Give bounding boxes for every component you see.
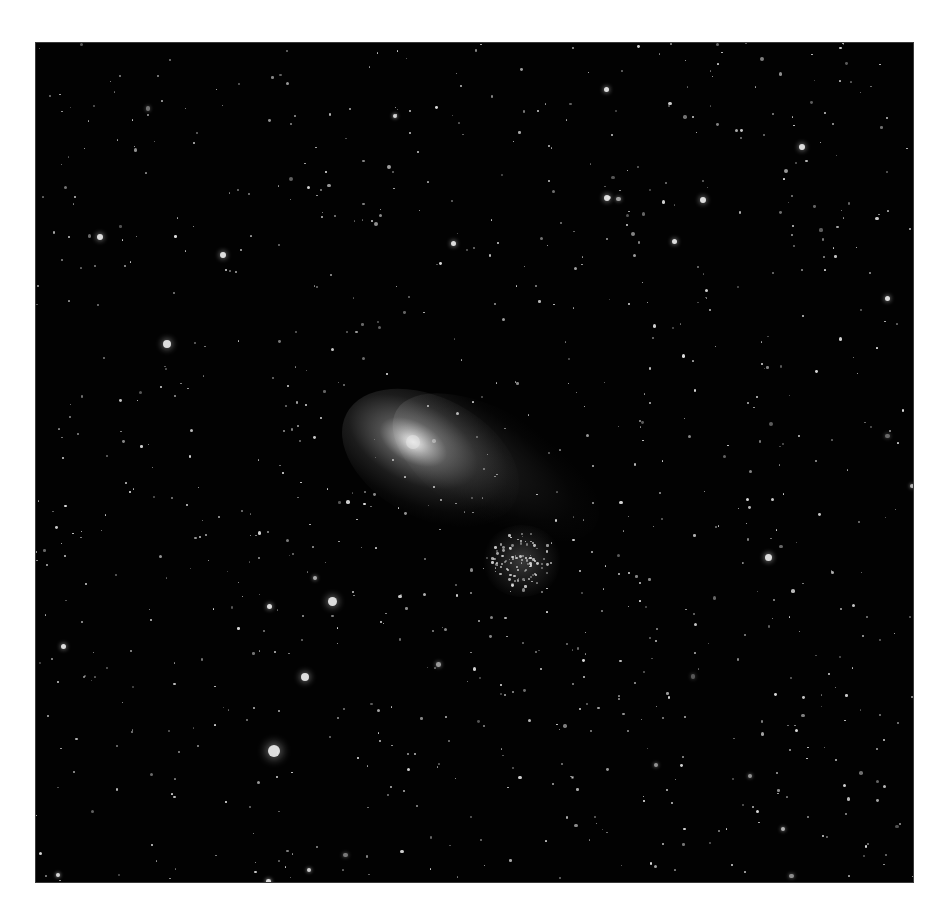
star [685,609,686,610]
star [65,600,67,602]
star [760,57,764,61]
star [791,195,793,197]
star [886,117,888,119]
star [470,652,471,653]
star [80,267,82,269]
star [346,331,348,333]
cluster-star [520,542,522,544]
star [572,539,574,541]
star [831,571,834,574]
star [718,525,720,527]
star [342,869,344,871]
star [850,81,852,83]
star [597,707,599,709]
star [791,589,795,593]
star [438,763,440,765]
star [315,147,317,149]
star [619,501,622,504]
star [397,109,399,111]
star [57,787,58,788]
star [811,54,813,56]
star [650,862,652,864]
star [618,573,620,575]
star [641,421,644,424]
star [848,202,851,205]
star [805,160,807,162]
star [400,850,403,853]
star [285,405,287,407]
star [483,725,485,727]
star [735,129,738,132]
star [39,48,40,49]
star [876,748,878,750]
star [662,460,663,461]
star [229,270,231,272]
star [238,582,239,583]
star [647,302,649,304]
star [395,107,397,109]
cluster-star [529,562,531,564]
star [649,637,651,639]
star [134,146,136,148]
star [403,790,405,792]
star [639,600,641,602]
star [132,686,134,688]
star [42,196,44,198]
star [427,667,428,668]
star [64,555,66,557]
star [579,570,581,572]
star [704,491,706,493]
star [432,439,435,442]
star [185,108,187,110]
star [291,428,293,430]
star [655,640,657,642]
cluster-star [494,546,497,549]
star [94,265,96,267]
star [119,75,121,77]
star [338,541,339,542]
star [839,47,842,50]
star [452,115,453,116]
star [198,487,199,488]
star [362,160,364,162]
star [174,662,176,664]
star [440,499,442,501]
star [566,643,568,645]
star [423,312,424,313]
star [330,274,332,276]
star [559,449,561,451]
star [267,531,269,533]
star [480,44,481,45]
star [733,738,734,739]
star [133,488,135,490]
star [387,165,391,169]
star [581,592,583,594]
star [895,825,899,829]
star [364,491,366,493]
star [312,546,314,548]
star [279,465,281,467]
star [435,106,438,109]
star [654,763,658,767]
star [574,824,577,827]
star [894,633,895,634]
star [361,323,364,326]
star [697,266,700,269]
star [290,199,291,200]
star [845,62,848,65]
star [467,681,469,683]
star [436,264,438,266]
star [362,219,364,221]
star [697,302,698,303]
star [573,231,574,232]
star [839,80,841,82]
star [61,164,62,165]
star [106,667,107,668]
star [844,720,846,722]
star [470,568,473,571]
bright-star [451,241,456,246]
star [194,537,197,540]
star [61,437,62,438]
star [259,650,261,652]
star [52,511,53,512]
